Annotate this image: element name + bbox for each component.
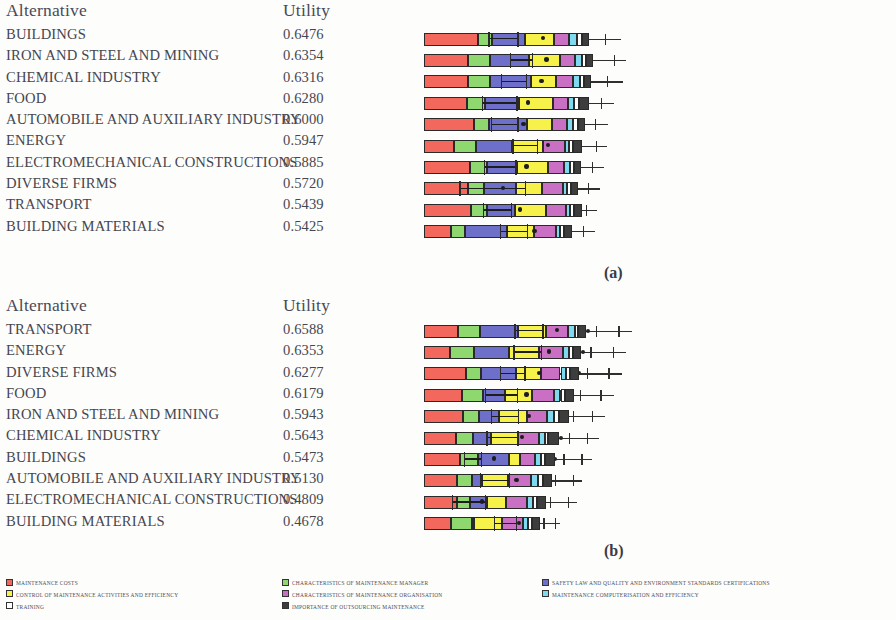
- table-row: BUILDING MATERIALS0.5425: [0, 218, 418, 239]
- inner-range-cap: [494, 516, 495, 531]
- inner-range-line: [510, 59, 532, 60]
- panel-b-chart: [420, 295, 896, 565]
- table-row: ELECTROMECHANICAL CONSTRUCTIONS0.4809: [0, 491, 418, 512]
- whisker-tick: [573, 411, 574, 422]
- panel-b-rows: TRANSPORT0.6588ENERGY0.6353DIVERSE FIRMS…: [0, 321, 418, 534]
- alternative-name: BUILDINGS: [6, 449, 86, 466]
- whisker-tick: [601, 98, 602, 109]
- inner-range-cap: [516, 96, 517, 111]
- bar-segment-importance-of-outsourcing-maintenance: [586, 54, 593, 67]
- inner-range-cap: [459, 181, 460, 196]
- whisker-tick: [586, 205, 587, 216]
- inner-range-cap: [484, 160, 485, 175]
- bar-segment-characteristics-of-maintenance-manager: [466, 367, 481, 380]
- inner-marker-point: [524, 164, 528, 168]
- bar-segment-characteristics-of-maintenance-organisation: [508, 474, 531, 487]
- inner-range-cap: [486, 431, 487, 446]
- bar-segment-control-of-maintenance-activities-and-efficiency: [517, 161, 548, 174]
- whisker-tick: [569, 433, 570, 444]
- inner-range-cap: [452, 495, 453, 510]
- stacked-bar-row: [420, 182, 896, 195]
- whisker-tick: [581, 454, 582, 465]
- utility-value: 0.5720: [283, 175, 324, 192]
- bar-segment-control-of-maintenance-activities-and-efficiency: [525, 33, 554, 46]
- column-header-alternative: Alternative: [6, 295, 87, 316]
- panel-b-table-header: Alternative Utility: [0, 295, 418, 320]
- bar-segment-maintenance-costs: [424, 517, 451, 530]
- bar-segment-importance-of-outsourcing-maintenance: [548, 432, 558, 445]
- alternative-name: CHEMICAL INDUSTRY: [6, 427, 161, 444]
- whisker-tick: [550, 497, 551, 508]
- table-row: CHEMICAL INDUSTRY0.6316: [0, 69, 418, 90]
- inner-range-line: [484, 166, 516, 167]
- table-row: TRANSPORT0.6588: [0, 321, 418, 342]
- inner-range-cap: [483, 203, 484, 218]
- bar-segment-maintenance-computerisation-and-efficiency: [531, 474, 538, 487]
- inner-range-cap: [526, 74, 527, 89]
- legend: MAINTENANCE COSTSCONTROL OF MAINTENANCE …: [0, 572, 896, 620]
- whisker-point: [581, 350, 585, 354]
- legend-label: MAINTENANCE COMPUTERISATION AND EFFICIEN…: [552, 590, 699, 598]
- inner-range-line: [488, 38, 517, 39]
- bar-segment-characteristics-of-maintenance-manager: [468, 54, 490, 67]
- utility-value: 0.4678: [283, 513, 324, 530]
- bar-segment-control-of-maintenance-activities-and-efficiency: [527, 118, 553, 131]
- whisker-tick: [590, 347, 591, 358]
- inner-range-cap: [480, 473, 481, 488]
- alternative-name: ELECTROMECHANICAL CONSTRUCTIONS: [6, 491, 298, 508]
- inner-range-cap: [517, 431, 518, 446]
- inner-range-line: [491, 416, 518, 417]
- whisker-tick: [573, 475, 574, 486]
- whisker-tick: [543, 518, 544, 529]
- inner-range-line: [513, 351, 540, 352]
- whisker-tick: [583, 226, 584, 237]
- inner-range-cap: [509, 473, 510, 488]
- inner-range-cap: [512, 139, 513, 154]
- bar-segment-safety-law-and-quality-and-environment-standards-certifications: [474, 346, 509, 359]
- table-row: DIVERSE FIRMS0.6277: [0, 364, 418, 385]
- utility-value: 0.6354: [283, 47, 324, 64]
- whisker-tick: [563, 454, 564, 465]
- bar-segment-characteristics-of-maintenance-organisation: [539, 346, 563, 359]
- stacked-bar-row: [420, 118, 896, 131]
- bar-segment-importance-of-outsourcing-maintenance: [579, 97, 588, 110]
- inner-range-cap: [517, 32, 518, 47]
- whisker-tick: [618, 326, 619, 337]
- bar-segment-characteristics-of-maintenance-manager: [450, 346, 474, 359]
- inner-range-cap: [541, 345, 542, 360]
- bar-segment-characteristics-of-maintenance-manager: [457, 474, 472, 487]
- whisker-tick: [614, 55, 615, 66]
- legend-column: MAINTENANCE COSTSCONTROL OF MAINTENANCE …: [6, 572, 178, 607]
- inner-range-cap: [485, 495, 486, 510]
- legend-item: CHARACTERISTICS OF MAINTENANCE MANAGER: [282, 572, 442, 584]
- whisker-tick: [588, 183, 589, 194]
- panel-a-rows: BUILDINGS0.6476IRON AND STEEL AND MINING…: [0, 26, 418, 239]
- alternative-name: FOOD: [6, 385, 46, 402]
- inner-marker-point: [521, 122, 525, 126]
- inner-range-line: [480, 480, 509, 481]
- alternative-name: DIVERSE FIRMS: [6, 175, 117, 192]
- alternative-name: DIVERSE FIRMS: [6, 364, 117, 381]
- table-row: AUTOMOBILE AND AUXILIARY INDUSTRY0.6000: [0, 111, 418, 132]
- inner-range-line: [483, 209, 511, 210]
- bar-segment-characteristics-of-maintenance-manager: [454, 140, 476, 153]
- legend-column: SAFETY LAW AND QUALITY AND ENVIRONMENT S…: [542, 572, 770, 595]
- inner-range-line: [500, 373, 524, 374]
- inner-range-cap: [491, 117, 492, 132]
- alternative-name: FOOD: [6, 90, 46, 107]
- alternative-name: TRANSPORT: [6, 196, 92, 213]
- utility-value: 0.4809: [283, 491, 324, 508]
- inner-range-cap: [482, 96, 483, 111]
- stacked-bar-row: [420, 346, 896, 359]
- inner-range-line: [491, 124, 517, 125]
- whisker-tick: [607, 76, 608, 87]
- legend-item: CHARACTERISTICS OF MAINTENANCE ORGANISAT…: [282, 584, 442, 596]
- bar-segment-maintenance-costs: [424, 33, 478, 46]
- bar-segment-maintenance-costs: [424, 97, 467, 110]
- table-row: BUILDINGS0.6476: [0, 26, 418, 47]
- table-row: ENERGY0.6353: [0, 342, 418, 363]
- inner-range-line: [482, 102, 516, 103]
- panel-a-table-header: Alternative Utility: [0, 0, 418, 25]
- table-row: ENERGY0.5947: [0, 132, 418, 153]
- utility-value: 0.6476: [283, 26, 324, 43]
